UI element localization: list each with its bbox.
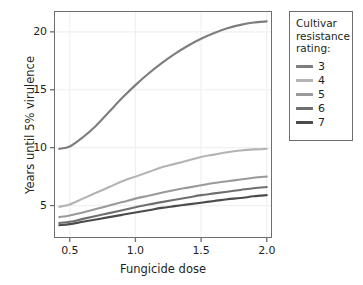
legend-line-swatch — [296, 107, 313, 110]
legend-item[interactable]: 7 — [296, 116, 352, 130]
x-tick-label: 1.5 — [183, 244, 219, 257]
legend-line-swatch — [296, 79, 313, 82]
legend-item-label: 3 — [318, 61, 325, 72]
legend-title-line-2: resistance — [296, 30, 352, 43]
legend-item-label: 4 — [318, 75, 325, 86]
legend-item[interactable]: 4 — [296, 74, 352, 88]
x-tick-label: 1.0 — [117, 244, 153, 257]
legend-title-line-3: rating: — [296, 42, 352, 55]
legend-item-list: 34567 — [296, 60, 352, 130]
x-tick-label: 0.5 — [52, 244, 88, 257]
legend-title-line-1: Cultivar — [296, 17, 352, 30]
chart-figure: 5101520 0.51.01.52.0 Fungicide dose Year… — [0, 0, 363, 285]
gridlines — [55, 12, 271, 237]
legend-box: Cultivar resistance rating: 34567 — [289, 11, 353, 141]
series-line-3 — [59, 21, 267, 148]
x-tick-label: 2.0 — [249, 244, 285, 257]
series-line-5 — [59, 177, 267, 218]
legend-item[interactable]: 5 — [296, 88, 352, 102]
series-curves — [59, 21, 267, 225]
legend-item-label: 6 — [318, 103, 325, 114]
x-axis-title: Fungicide dose — [0, 262, 326, 276]
legend-line-swatch — [296, 93, 313, 96]
legend-item-label: 5 — [318, 89, 325, 100]
legend-item[interactable]: 6 — [296, 102, 352, 116]
legend-line-swatch — [296, 65, 313, 68]
legend-line-swatch — [296, 121, 313, 124]
legend-item[interactable]: 3 — [296, 60, 352, 74]
legend-item-label: 7 — [318, 117, 325, 128]
y-axis-title: Years until 5% virulence — [23, 35, 37, 215]
